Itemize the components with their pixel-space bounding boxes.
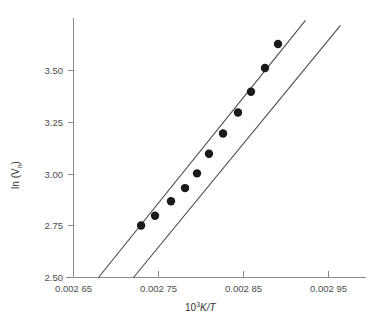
x-tick-label: 0.002 75 xyxy=(140,283,177,294)
data-point xyxy=(137,221,145,229)
fit-lines-group xyxy=(98,20,340,277)
x-axis-title: 103K/T xyxy=(185,301,216,313)
y-tick-label: 3.00 xyxy=(45,169,64,180)
data-point xyxy=(219,129,227,137)
data-point xyxy=(205,150,213,158)
y-axis-title-close: ) xyxy=(10,161,21,164)
y-axis-title: ln (Vn) xyxy=(10,161,23,189)
x-tick-label: 0.002 85 xyxy=(225,283,262,294)
shallow-fit-line xyxy=(134,25,341,277)
data-point xyxy=(261,64,269,72)
data-point xyxy=(193,169,201,177)
y-tick-label: 2.50 xyxy=(45,272,64,283)
y-tick-label: 3.25 xyxy=(45,117,64,128)
x-tick-marks xyxy=(74,271,329,278)
svg-text:103K/T: 103K/T xyxy=(185,301,216,313)
data-point xyxy=(167,197,175,205)
svg-text:ln (Vn): ln (Vn) xyxy=(10,161,23,189)
x-axis-title-rest: K/T xyxy=(200,302,216,313)
data-point xyxy=(274,40,282,48)
steep-fit-line xyxy=(98,20,305,277)
y-axis-title-base: ln (V xyxy=(10,168,21,189)
data-point xyxy=(181,184,189,192)
scatter-plot: 3.50 3.25 3.00 2.75 2.50 0.002 65 0.002 … xyxy=(0,0,378,326)
chart-container: 3.50 3.25 3.00 2.75 2.50 0.002 65 0.002 … xyxy=(0,0,378,326)
data-point xyxy=(247,88,255,96)
y-tick-labels: 3.50 3.25 3.00 2.75 2.50 xyxy=(45,65,64,283)
data-point xyxy=(151,212,159,220)
y-tick-marks xyxy=(66,71,74,278)
x-tick-label: 0.002 95 xyxy=(310,283,347,294)
data-points-group xyxy=(137,40,282,230)
data-point xyxy=(234,108,242,116)
x-tick-labels: 0.002 65 0.002 75 0.002 85 0.002 95 xyxy=(55,283,347,294)
y-tick-label: 2.75 xyxy=(45,220,64,231)
x-tick-label: 0.002 65 xyxy=(55,283,92,294)
y-tick-label: 3.50 xyxy=(45,65,64,76)
x-axis-title-base: 10 xyxy=(185,302,197,313)
